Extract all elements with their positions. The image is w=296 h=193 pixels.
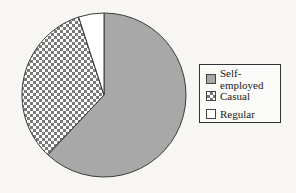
solid-grey-swatch-icon bbox=[206, 74, 216, 84]
legend: Self-employed Casual Regular bbox=[199, 64, 281, 123]
legend-label: Regular bbox=[220, 108, 255, 120]
legend-label: Casual bbox=[220, 90, 250, 102]
legend-label: Self-employed bbox=[220, 67, 280, 91]
legend-item-regular: Regular bbox=[206, 105, 280, 123]
empty-swatch-icon bbox=[206, 109, 216, 119]
pie-slices bbox=[22, 13, 186, 177]
legend-item-self-employed: Self-employed bbox=[206, 70, 280, 88]
pie-chart: Self-employed Casual Regular bbox=[0, 0, 296, 193]
checker-swatch-icon bbox=[206, 91, 216, 101]
